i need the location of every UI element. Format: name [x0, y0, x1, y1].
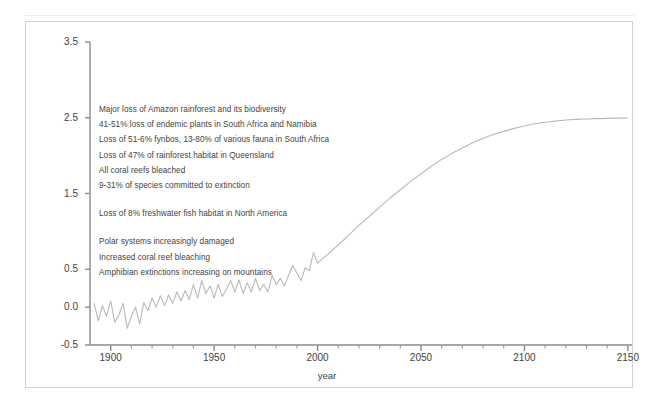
x-axis-tick-label: 1950: [184, 352, 244, 363]
x-axis-label: year: [0, 370, 654, 381]
y-axis-tick-label: 2.5: [44, 112, 78, 123]
annotation-text: Amphibian extinctions increasing on moun…: [99, 265, 399, 280]
annotation-text: 9-31% of species committed to extinction: [99, 178, 399, 193]
annotation-text: Loss of 51-6% fynbos, 13-80% of various …: [99, 132, 399, 147]
annotation-text: Loss of 8% freshwater fish habitat in No…: [99, 206, 399, 221]
annotation-text: Polar systems increasingly damaged: [99, 234, 399, 249]
x-axis-tick-label: 2050: [391, 352, 451, 363]
annotation-text: Loss of 47% of rainforest habitat in Que…: [99, 148, 399, 163]
y-axis-tick-label: 1.5: [44, 188, 78, 199]
y-axis-tick-label: 0.5: [44, 263, 78, 274]
y-axis-tick-label: 0.0: [44, 301, 78, 312]
annotation-text: Increased coral reef bleaching: [99, 250, 399, 265]
y-axis-tick-label: 3.5: [44, 36, 78, 47]
annotation-text: All coral reefs bleached: [99, 163, 399, 178]
annotation-text: Major loss of Amazon rainforest and its …: [99, 102, 399, 117]
y-axis-tick-label: -0.5: [44, 339, 78, 350]
x-axis-tick-label: 2000: [288, 352, 348, 363]
x-axis-tick-label: 1900: [81, 352, 141, 363]
figure-page: °C temperature rise above the pre-indust…: [0, 0, 654, 407]
annotation-text: 41-51% loss of endemic plants in South A…: [99, 117, 399, 132]
impact-annotations: Major loss of Amazon rainforest and its …: [99, 102, 399, 280]
x-axis-tick-label: 2150: [598, 352, 654, 363]
x-axis-tick-label: 2100: [494, 352, 554, 363]
